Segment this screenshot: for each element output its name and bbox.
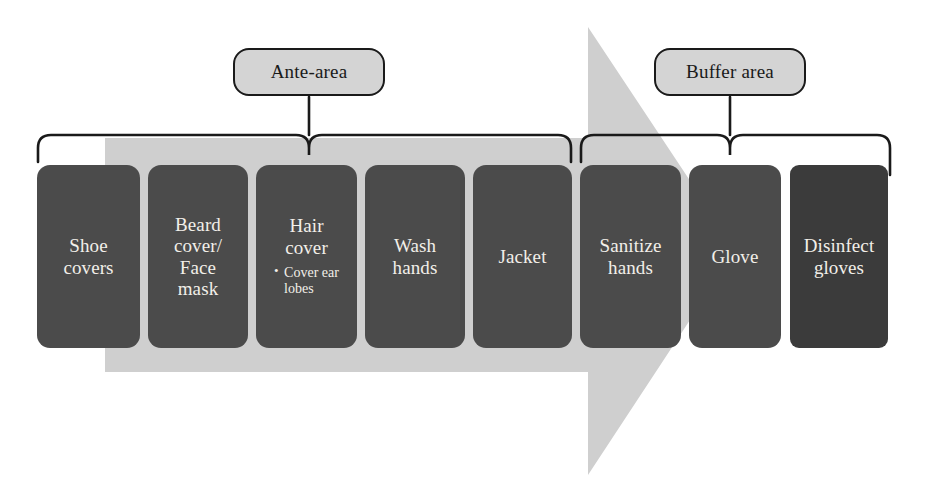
step-box-hair-cover[interactable]: Hair cover Cover ear lobes (256, 165, 357, 348)
step-label: Shoe covers (63, 235, 113, 278)
step-label: Hair cover (285, 215, 328, 258)
step-label: Sanitize hands (599, 235, 661, 278)
step-box-disinfect-gloves[interactable]: Disinfect gloves (790, 165, 888, 348)
step-box-glove[interactable]: Glove (689, 165, 781, 348)
step-label: Jacket (498, 246, 546, 267)
step-label: Disinfect gloves (804, 235, 875, 278)
step-box-shoe-covers[interactable]: Shoe covers (37, 165, 140, 348)
step-note-cover-ear-lobes: Cover ear lobes (274, 265, 339, 297)
callout-ante-area[interactable]: Ante-area (233, 48, 385, 96)
step-label: Glove (712, 246, 759, 267)
step-label: Wash hands (393, 235, 438, 278)
step-box-wash-hands[interactable]: Wash hands (365, 165, 465, 348)
callout-buffer-area-label: Buffer area (686, 61, 774, 83)
step-box-jacket[interactable]: Jacket (473, 165, 572, 348)
step-box-sanitize-hands[interactable]: Sanitize hands (580, 165, 681, 348)
step-box-beard-face-mask[interactable]: Beard cover/ Face mask (148, 165, 248, 348)
callout-buffer-area[interactable]: Buffer area (654, 48, 806, 96)
step-label: Beard cover/ Face mask (174, 214, 222, 300)
diagram-canvas: Shoe covers Beard cover/ Face mask Hair … (0, 0, 930, 483)
callout-ante-area-label: Ante-area (271, 61, 348, 83)
